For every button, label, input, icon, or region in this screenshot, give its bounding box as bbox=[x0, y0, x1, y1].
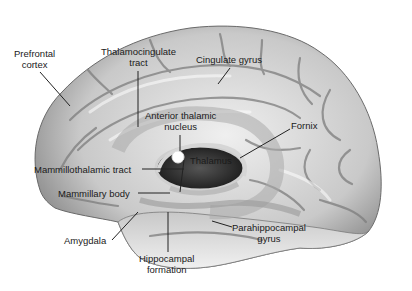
label-thalamus: Thalamus bbox=[190, 155, 232, 166]
label-fornix: Fornix bbox=[291, 120, 317, 131]
label-anterior-thalamic-nucleus: Anterior thalamic nucleus bbox=[145, 110, 216, 132]
brain-diagram: Prefrontal cortex Thalamocingulate tract… bbox=[0, 0, 412, 291]
label-thalamocingulate-tract: Thalamocingulate tract bbox=[101, 46, 176, 68]
anterior-thalamic-nucleus-dot bbox=[172, 151, 184, 163]
label-parahippocampal-gyrus: Parahippocampal gyrus bbox=[232, 222, 306, 244]
label-amygdala: Amygdala bbox=[64, 235, 106, 246]
label-mammillothalamic-tract: Mammillothalamic tract bbox=[34, 164, 131, 175]
label-mammillary-body: Mammillary body bbox=[58, 188, 130, 199]
label-cingulate-gyrus: Cingulate gyrus bbox=[196, 54, 262, 65]
label-prefrontal-cortex: Prefrontal cortex bbox=[14, 48, 55, 70]
brain-illustration bbox=[0, 0, 412, 291]
label-hippocampal-formation: Hippocampal formation bbox=[139, 253, 194, 275]
